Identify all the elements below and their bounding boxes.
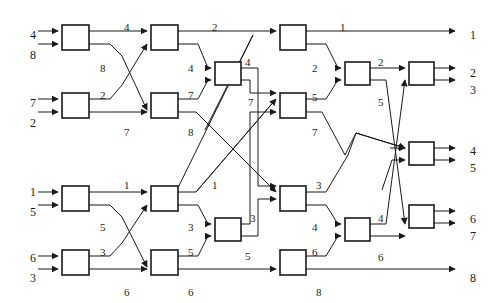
wire-s5b-top — [370, 80, 405, 224]
wire-value-label: 6 — [188, 287, 194, 298]
wire-value-label: 4 — [312, 222, 318, 233]
wire-value-label: 4 — [188, 63, 194, 74]
wire-value-label: 4 — [245, 57, 251, 68]
wire-s2b-top — [178, 80, 211, 99]
output-label: 8 — [470, 272, 476, 284]
input-label: 6 — [30, 252, 36, 264]
wire-value-label: 7 — [188, 90, 194, 101]
comparator-box — [280, 250, 306, 275]
input-label: 1 — [30, 186, 36, 198]
comparator-box — [62, 93, 89, 118]
wire-value-label: 5 — [100, 222, 106, 233]
wire-value-label: 4 — [378, 213, 384, 224]
output-label: 6 — [470, 213, 476, 225]
comparator-box — [62, 186, 89, 211]
wire-value-label: 2 — [212, 22, 218, 33]
comparator-box — [151, 186, 178, 211]
wire-value-label: 2 — [312, 63, 318, 74]
wire-value-label: 6 — [378, 252, 384, 263]
comparator-box — [215, 218, 241, 241]
wire-value-label: 1 — [340, 22, 346, 33]
wire-value-label: 8 — [188, 127, 194, 138]
wire-value-label: 5 — [378, 97, 384, 108]
comparator-box — [62, 25, 89, 50]
wire-value-label: 3 — [100, 247, 106, 258]
wire-s1a-bot — [89, 44, 147, 110]
wire-value-label: 7 — [124, 127, 130, 138]
wire-value-label: 4 — [124, 22, 130, 33]
input-label: 4 — [30, 29, 36, 41]
wire-diag-long-2 — [172, 35, 253, 200]
input-label: 7 — [30, 97, 36, 109]
comparator-box — [151, 93, 178, 118]
wire-value-label: 2 — [100, 90, 106, 101]
wire-s1c-bot — [89, 205, 147, 267]
wire-s5a-bot — [370, 80, 405, 224]
output-label: 3 — [470, 84, 476, 96]
sorting-network-figure: 4872156312345678482724784712572515361356… — [0, 0, 490, 303]
wire-value-label: 7 — [248, 97, 254, 108]
wire-s2c-top — [178, 99, 276, 192]
wire-s3b-bot — [241, 199, 276, 236]
comparator-box — [151, 250, 178, 275]
input-label: 2 — [30, 117, 36, 129]
comparator-box — [345, 62, 370, 85]
wire-value-label: 3 — [188, 222, 194, 233]
output-label: 2 — [470, 67, 476, 79]
wire-s2a-bot — [178, 44, 211, 68]
wire-value-label: 2 — [378, 57, 384, 68]
output-label: 1 — [470, 29, 476, 41]
comparator-box — [409, 142, 434, 165]
wire-value-label: 5 — [188, 247, 194, 258]
output-label: 4 — [470, 145, 476, 157]
comparator-box — [409, 205, 434, 228]
wire-value-label: 6 — [124, 287, 130, 298]
input-label: 3 — [30, 272, 36, 284]
wire-value-label: 6 — [312, 247, 318, 258]
wire-value-label: 8 — [100, 63, 106, 74]
wire-value-label: 5 — [312, 92, 318, 103]
wire-value-label: 8 — [316, 287, 322, 298]
wire-cross-b — [196, 99, 276, 192]
input-label: 8 — [30, 49, 36, 61]
comparator-box — [280, 186, 306, 211]
output-label: 7 — [470, 230, 476, 242]
comparator-box — [62, 250, 89, 275]
wire-value-label: 1 — [212, 180, 218, 191]
comparator-box — [280, 25, 306, 50]
comparator-box — [280, 93, 306, 118]
comparator-box — [409, 62, 434, 85]
wire-s2b-bot — [178, 112, 276, 192]
wire-s3a-top — [241, 68, 276, 186]
comparator-box — [215, 62, 241, 85]
wire-s2d-top — [178, 236, 211, 256]
wire-s2c-bot — [178, 205, 211, 224]
wire-value-label: 3 — [250, 213, 256, 224]
comparator-box — [151, 25, 178, 50]
wire-value-label: 1 — [124, 180, 130, 191]
comparator-box — [345, 218, 370, 241]
wire-value-label: 7 — [312, 127, 318, 138]
wire-value-label: 3 — [316, 180, 322, 191]
wire-value-label: 5 — [245, 251, 251, 262]
output-label: 5 — [470, 162, 476, 174]
input-label: 5 — [30, 206, 36, 218]
